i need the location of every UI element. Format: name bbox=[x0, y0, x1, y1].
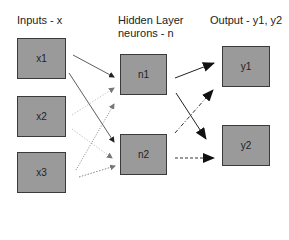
node-n2-label: n2 bbox=[138, 149, 149, 160]
edge-x1-n1 bbox=[73, 55, 114, 77]
node-x1: x1 bbox=[17, 38, 66, 79]
node-y2: y2 bbox=[222, 125, 270, 166]
node-n2: n2 bbox=[120, 134, 167, 175]
edge-x2-n1 bbox=[72, 88, 114, 115]
edge-n2-y1 bbox=[175, 90, 213, 133]
edge-n1-y1 bbox=[175, 63, 214, 78]
node-x3: x3 bbox=[17, 152, 66, 193]
edge-x2-n2 bbox=[72, 129, 112, 158]
edge-x3-n2 bbox=[79, 166, 115, 177]
node-y1-label: y1 bbox=[241, 61, 252, 72]
node-n1-label: n1 bbox=[138, 69, 149, 80]
node-n1: n1 bbox=[120, 54, 167, 95]
node-x1-label: x1 bbox=[36, 53, 47, 64]
edge-x3-n1 bbox=[76, 104, 114, 170]
node-x2: x2 bbox=[17, 96, 66, 137]
node-y2-label: y2 bbox=[241, 140, 252, 151]
node-x2-label: x2 bbox=[36, 111, 47, 122]
edge-n1-y2 bbox=[176, 93, 206, 139]
node-y1: y1 bbox=[222, 46, 270, 87]
node-x3-label: x3 bbox=[36, 167, 47, 178]
edge-x1-n2 bbox=[69, 73, 114, 142]
